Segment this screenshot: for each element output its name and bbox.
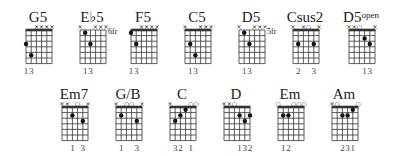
finger-number: 1 xyxy=(129,66,134,76)
finger-number: 2 xyxy=(340,143,345,153)
finger-number: 1 xyxy=(70,143,75,153)
finger-dot-icon xyxy=(183,108,187,112)
fretboard-grid: ××××5fr13 xyxy=(235,22,295,72)
finger-dot-icon xyxy=(242,31,246,35)
finger-dot-icon xyxy=(173,119,177,123)
muted-string-icon: × xyxy=(182,23,187,31)
finger-number: 2 xyxy=(296,66,301,76)
muted-string-icon: × xyxy=(85,100,90,108)
open-string-icon: ○ xyxy=(275,100,280,107)
finger-dot-icon xyxy=(340,113,344,117)
finger-number: 3 xyxy=(135,143,140,153)
finger-number: 1 xyxy=(362,66,367,76)
finger-number: 3 xyxy=(81,143,86,153)
finger-dot-icon xyxy=(248,113,252,117)
finger-dot-icon xyxy=(178,113,182,117)
finger-number: 2 xyxy=(248,143,253,153)
muted-string-icon: × xyxy=(208,23,213,31)
finger-dot-icon xyxy=(129,31,133,35)
fretboard-grid: ○○○○12 xyxy=(274,99,334,149)
fret-position-label: 5fr xyxy=(267,27,277,36)
fretboard-grid: ××○×13 xyxy=(58,99,118,149)
finger-dot-icon xyxy=(351,108,355,112)
finger-number: 1 xyxy=(83,66,88,76)
chord-diagram: Am×○○231 xyxy=(328,87,388,156)
finger-dot-icon xyxy=(134,42,138,46)
fretboard-grid: ××××13 xyxy=(181,22,241,72)
open-string-icon: ○ xyxy=(355,100,360,107)
finger-number: 3 xyxy=(88,66,93,76)
finger-number: 1 xyxy=(242,66,247,76)
muted-string-icon: × xyxy=(113,100,118,108)
finger-number: 1 xyxy=(24,66,29,76)
open-string-icon: ○ xyxy=(193,100,198,107)
muted-string-icon: × xyxy=(290,23,295,31)
open-string-icon: ○ xyxy=(232,100,237,107)
chord-diagram: D5open××○×13 xyxy=(345,10,405,85)
finger-number: 1 xyxy=(237,143,242,153)
finger-dot-icon xyxy=(368,42,372,46)
finger-dot-icon xyxy=(193,53,197,57)
fretboard-grid: ××○×23 xyxy=(289,22,349,72)
open-string-icon: ○ xyxy=(357,23,362,30)
muted-string-icon: × xyxy=(64,100,69,108)
fretboard-grid: ××××13 xyxy=(127,22,187,72)
open-string-icon: ○ xyxy=(75,100,80,107)
muted-string-icon: × xyxy=(316,23,321,31)
finger-number: 3 xyxy=(368,66,373,76)
open-string-icon: ○ xyxy=(306,23,311,30)
fretboard-grid: ××××13 xyxy=(22,22,82,72)
open-string-icon: ○ xyxy=(301,100,306,107)
fret-position-label: 6fr xyxy=(108,27,118,36)
finger-dot-icon xyxy=(243,119,247,123)
finger-number: 3 xyxy=(193,66,198,76)
finger-dot-icon xyxy=(83,31,87,35)
finger-number: 1 xyxy=(281,143,286,153)
fretboard-grid: ×○○321 xyxy=(166,99,226,149)
finger-dot-icon xyxy=(296,42,300,46)
finger-number: 1 xyxy=(189,143,194,153)
finger-dot-icon xyxy=(286,113,290,117)
muted-string-icon: × xyxy=(167,100,172,108)
fretboard-grid: ×○○231 xyxy=(328,99,388,149)
muted-string-icon: × xyxy=(236,23,241,31)
finger-number: 3 xyxy=(247,66,252,76)
finger-dot-icon xyxy=(119,113,123,117)
fretboard-grid: ××○132 xyxy=(220,99,280,149)
open-string-icon: ○ xyxy=(129,100,134,107)
finger-dot-icon xyxy=(362,36,366,40)
finger-number: 3 xyxy=(312,66,317,76)
finger-number: 3 xyxy=(134,66,139,76)
finger-dot-icon xyxy=(188,42,192,46)
finger-number: 2 xyxy=(178,143,183,153)
finger-number: 1 xyxy=(188,66,193,76)
finger-number: 2 xyxy=(286,143,291,153)
finger-dot-icon xyxy=(88,42,92,46)
finger-number: 1 xyxy=(119,143,124,153)
finger-dot-icon xyxy=(345,113,349,117)
finger-dot-icon xyxy=(29,53,33,57)
finger-number: 1 xyxy=(351,143,356,153)
fretboard-grid: ×○○×13 xyxy=(112,99,172,149)
muted-string-icon: × xyxy=(49,23,54,31)
finger-dot-icon xyxy=(24,42,28,46)
muted-string-icon: × xyxy=(372,23,377,31)
muted-string-icon: × xyxy=(154,23,159,31)
finger-dot-icon xyxy=(70,113,74,117)
finger-number: 3 xyxy=(29,66,34,76)
finger-dot-icon xyxy=(312,42,316,46)
finger-dot-icon xyxy=(135,119,139,123)
muted-string-icon: × xyxy=(77,23,82,31)
finger-dot-icon xyxy=(281,113,285,117)
muted-string-icon: × xyxy=(139,100,144,108)
finger-dot-icon xyxy=(247,42,251,46)
open-string-icon: ○ xyxy=(335,100,340,107)
finger-dot-icon xyxy=(237,113,241,117)
finger-dot-icon xyxy=(81,119,85,123)
fretboard-grid: ××○×13 xyxy=(345,22,405,72)
